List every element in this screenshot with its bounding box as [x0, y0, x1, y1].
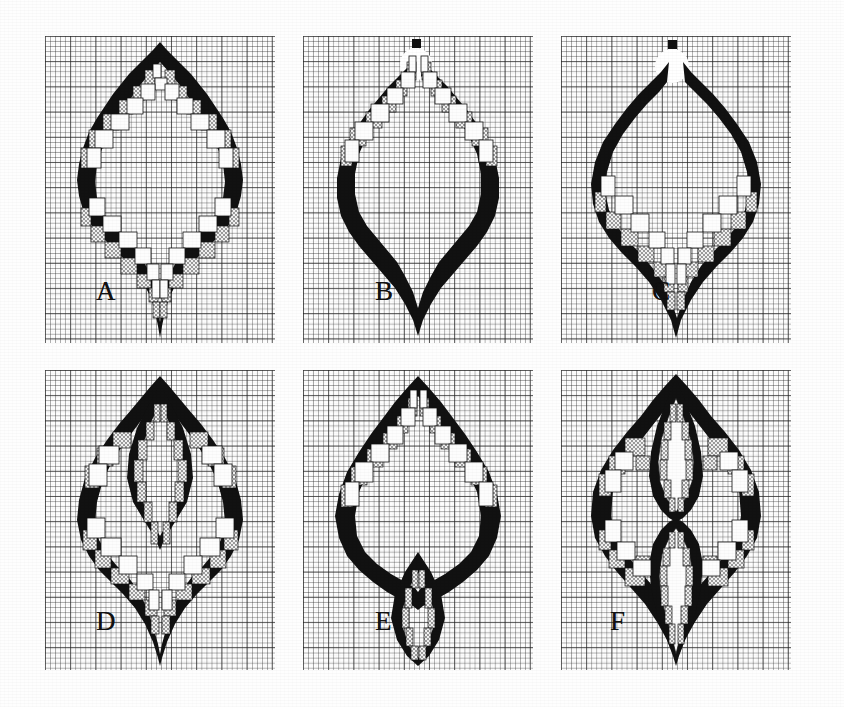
detached-dot-c: [668, 40, 677, 49]
onion-diagram-e: [303, 370, 533, 670]
thin-boxes-d: [87, 446, 234, 610]
onion-diagram-f: [561, 370, 791, 670]
panel-b: B: [303, 36, 533, 343]
onion-diagram-b: [303, 36, 533, 343]
panel-label-a: A: [96, 278, 116, 305]
onion-diagram-d: [45, 370, 275, 670]
figure-sheet: A: [0, 0, 844, 707]
onion-diagram-c: [561, 36, 791, 343]
panel-label-e: E: [375, 608, 392, 635]
detached-dot-b: [412, 39, 421, 48]
panel-f: F: [561, 370, 791, 670]
onion-diagram-a: [45, 36, 275, 343]
panel-label-f: F: [610, 608, 625, 635]
panel-label-c: C: [652, 278, 670, 305]
panel-c: C: [561, 36, 791, 343]
panel-a: A: [45, 36, 275, 343]
panel-label-d: D: [96, 608, 116, 635]
panel-d: D: [45, 370, 275, 670]
outline-b: [337, 60, 499, 336]
panel-label-b: B: [375, 278, 393, 305]
panel-e: E: [303, 370, 533, 670]
